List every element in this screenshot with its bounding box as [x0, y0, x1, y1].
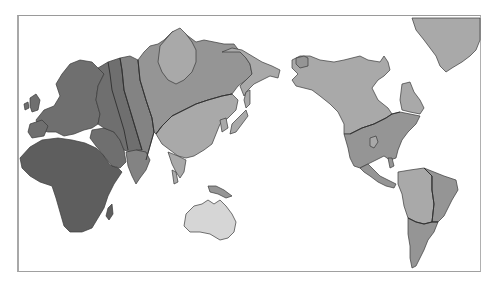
- region-south-america-north: [398, 168, 434, 224]
- region-australia: [184, 200, 236, 240]
- region-labrador: [400, 82, 424, 114]
- region-greenland: [412, 18, 480, 72]
- region-florida: [388, 158, 394, 168]
- world-map: [0, 0, 500, 285]
- region-new-guinea: [208, 186, 232, 198]
- region-korea: [220, 118, 228, 132]
- region-british-isles: [30, 94, 40, 112]
- region-ireland: [24, 102, 29, 110]
- region-alaska-north: [296, 56, 308, 68]
- region-india: [126, 150, 150, 184]
- region-madagascar: [106, 204, 113, 220]
- region-south-america-south: [408, 218, 438, 268]
- region-iberia: [28, 120, 48, 138]
